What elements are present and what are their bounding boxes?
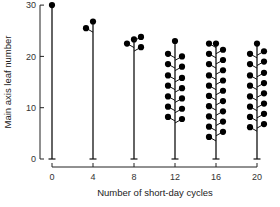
y-axis-title: Main axis leaf number (2, 36, 13, 129)
flower-dot (247, 114, 253, 120)
flower-dot (220, 47, 226, 53)
flower-dot (247, 83, 253, 89)
plant-leaf-chart: 0102030 048121620 Main axis leaf number … (0, 0, 280, 207)
flower-dot (220, 108, 226, 114)
flower-dot (261, 111, 267, 117)
flower-dot (165, 51, 171, 57)
x-tick-label: 8 (131, 172, 136, 182)
flower-dot (261, 80, 267, 86)
x-axis: 048121620 (49, 163, 262, 182)
flower-dot (206, 124, 212, 130)
flower-dot (261, 58, 267, 64)
flower-dot (83, 25, 89, 31)
flower-dot (179, 53, 185, 59)
x-tick-label: 12 (170, 172, 180, 182)
flower-dot (165, 83, 171, 89)
plant-12 (165, 38, 185, 159)
flower-dot (206, 113, 212, 119)
flower-dot (90, 18, 96, 24)
flower-dot (172, 38, 178, 44)
flower-dot (261, 48, 267, 54)
y-axis: 0102030 (26, 0, 44, 164)
plant-16 (206, 40, 226, 159)
flower-dot (49, 2, 55, 8)
y-tick-label: 0 (31, 154, 36, 164)
plants-layer (49, 2, 268, 159)
flower-dot (179, 64, 185, 70)
flower-dot (220, 129, 226, 135)
flower-dot (179, 116, 185, 122)
flower-dot (254, 40, 260, 46)
flower-dot (165, 93, 171, 99)
plant-4 (83, 18, 97, 159)
flower-dot (261, 70, 267, 76)
flower-dot (138, 44, 144, 50)
plant-0 (49, 2, 56, 159)
x-axis-title: Number of short-day cycles (97, 187, 213, 198)
flower-dot (206, 51, 212, 57)
flower-dot (206, 103, 212, 109)
flower-dot (206, 40, 212, 46)
flower-dot (220, 77, 226, 83)
x-tick-label: 16 (211, 172, 221, 182)
flower-dot (247, 61, 253, 67)
flower-dot (213, 40, 219, 46)
flower-dot (165, 61, 171, 67)
flower-dot (261, 90, 267, 96)
flower-dot (165, 72, 171, 78)
flower-dot (206, 72, 212, 78)
plant-20 (247, 40, 267, 159)
flower-dot (165, 114, 171, 120)
flower-dot (247, 51, 253, 57)
flower-dot (261, 121, 267, 127)
flower-dot (247, 72, 253, 78)
flower-dot (220, 98, 226, 104)
flower-dot (179, 95, 185, 101)
flower-dot (179, 75, 185, 81)
flower-dot (220, 118, 226, 124)
flower-dot (220, 67, 226, 73)
flower-dot (206, 83, 212, 89)
x-tick-label: 4 (90, 172, 95, 182)
y-tick-label: 30 (26, 0, 36, 10)
flower-dot (220, 88, 226, 94)
y-tick-label: 10 (26, 103, 36, 113)
flower-dot (261, 100, 267, 106)
y-tick-label: 20 (26, 52, 36, 62)
x-tick-label: 0 (49, 172, 54, 182)
x-tick-label: 20 (252, 172, 262, 182)
flower-dot (179, 106, 185, 112)
flower-dot (206, 93, 212, 99)
flower-dot (220, 57, 226, 63)
flower-dot (179, 85, 185, 91)
flower-dot (124, 40, 130, 46)
flower-dot (138, 34, 144, 40)
flower-dot (165, 104, 171, 110)
flower-dot (206, 134, 212, 140)
plant-8 (124, 34, 144, 159)
flower-dot (247, 124, 253, 130)
flower-dot (247, 93, 253, 99)
flower-dot (247, 104, 253, 110)
flower-dot (206, 61, 212, 67)
